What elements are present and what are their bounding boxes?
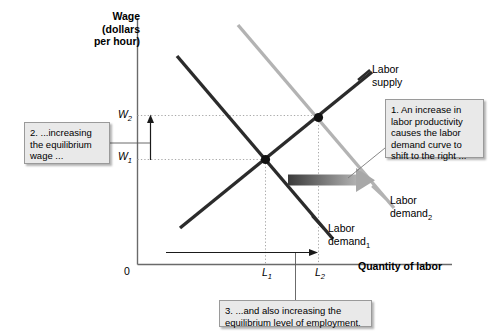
- equilibrium-point-2: [314, 113, 323, 122]
- diagram-canvas: Wage (dollars per hour) Quantity of labo…: [0, 0, 493, 331]
- callout-labor-productivity-increase: 1. An increase in labor productivity cau…: [385, 99, 484, 158]
- x-tick-l1: L1: [258, 266, 276, 281]
- callout-increasing-employment: 3. ...and also increasing the equilibriu…: [219, 300, 372, 327]
- y-tick-w2: W2: [116, 108, 132, 123]
- origin-label: 0: [124, 265, 130, 277]
- x-tick-l2: L2: [311, 266, 329, 281]
- curve-label-labor-supply: Labor supply: [372, 63, 402, 88]
- callout-increasing-equilibrium-wage: 2. ...increasing the equilibrium wage ..…: [24, 122, 110, 164]
- y-tick-w1: W1: [116, 150, 132, 165]
- equilibrium-point-1: [261, 155, 270, 164]
- curve-label-labor-demand-1: Labor demand1: [328, 222, 370, 252]
- curve-label-labor-demand-2: Labor demand2: [390, 194, 432, 224]
- y-axis-title: Wage (dollars per hour): [56, 10, 140, 48]
- x-axis-title: Quantity of labor: [358, 260, 442, 272]
- supply-demand-plot: [0, 0, 493, 331]
- wage-increase-arrow: [147, 115, 154, 161]
